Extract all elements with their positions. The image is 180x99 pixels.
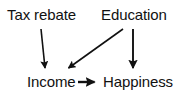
edge-tax-rebate-to-income bbox=[41, 29, 45, 68]
causal-diagram: Tax rebate Education Income Happiness bbox=[0, 0, 180, 99]
node-label-education: Education bbox=[101, 7, 167, 23]
node-label-tax-rebate: Tax rebate bbox=[7, 7, 76, 23]
edge-education-to-income bbox=[69, 29, 124, 68]
node-label-income: Income bbox=[27, 74, 76, 90]
node-label-happiness: Happiness bbox=[103, 74, 173, 90]
